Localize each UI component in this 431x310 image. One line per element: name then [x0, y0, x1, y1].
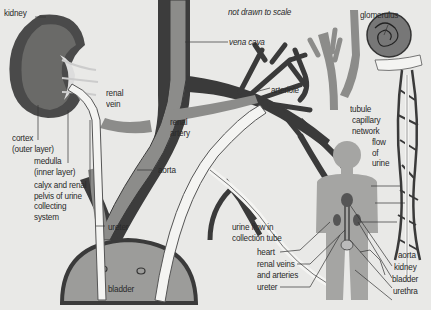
label-aorta: aorta — [158, 165, 176, 176]
label-ureter: ureter — [108, 222, 128, 233]
label-not-to-scale: not drawn to scale — [228, 7, 291, 18]
label-kidney-body: kidney — [394, 262, 417, 273]
glomerulus-illustration — [340, 10, 422, 98]
label-urine-flow-collection: urine flow in collection tube — [232, 222, 282, 243]
label-renal-artery: renal artery — [170, 117, 190, 138]
label-aorta-body: aorta — [398, 250, 416, 261]
label-heart: heart — [257, 247, 275, 258]
label-calyx: calyx and renal pelvis of urine collecti… — [34, 180, 86, 222]
label-tubule: tubule — [350, 104, 371, 115]
label-urethra: urethra — [393, 286, 418, 297]
label-bladder: bladder — [108, 284, 134, 295]
label-ureter-body: ureter — [257, 282, 277, 293]
label-glomerulus: glomerulus — [360, 10, 398, 21]
label-capillary-network: capillary network — [352, 115, 380, 136]
label-renal-vein: renal vein — [106, 88, 123, 109]
label-bladder-body: bladder — [392, 274, 418, 285]
label-renal-veins-arteries: renal veins and arteries — [257, 259, 298, 280]
label-cortex: cortex (outer layer) — [12, 133, 54, 154]
label-arteriole: arteriole — [271, 85, 299, 96]
label-vena-cava: vena cava — [229, 37, 265, 48]
label-medulla: medulla (inner layer) — [34, 156, 75, 177]
kidney-urinary-diagram — [0, 0, 431, 310]
label-kidney: kidney — [4, 8, 27, 19]
label-flow-of-urine: flow of urine — [372, 137, 389, 169]
human-body-illustration — [316, 141, 378, 300]
arteriole-illustration — [290, 30, 340, 110]
